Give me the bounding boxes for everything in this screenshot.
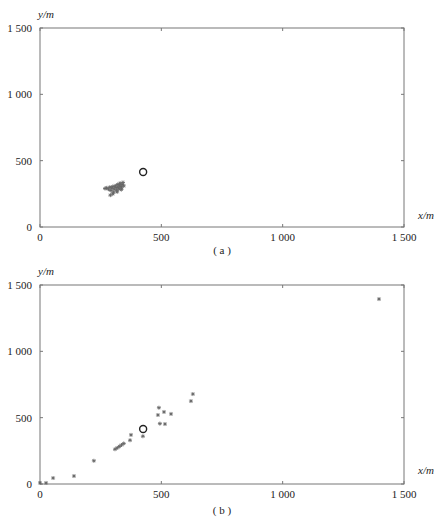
open-circle-icon: [140, 168, 147, 175]
x-tick-label: 1 000: [270, 488, 295, 500]
asterisk-icon: [156, 413, 160, 417]
x-tick-label: 1 500: [392, 488, 417, 500]
chart-panel-a: 05001 0001 50005001 0001 500y/mx/m( a ): [0, 0, 445, 266]
asterisk-icon: [158, 422, 162, 426]
asterisk-icon: [377, 297, 381, 301]
asterisk-icon: [72, 474, 76, 478]
x-tick-label: 500: [153, 488, 170, 500]
asterisk-icon: [122, 184, 126, 188]
asterisk-icon: [163, 422, 167, 426]
asterisk-icon: [44, 481, 48, 485]
x-axis-label: x/m: [417, 209, 434, 221]
plot-frame: [40, 285, 404, 484]
x-tick-label: 1 000: [270, 231, 295, 243]
asterisk-icon: [119, 188, 123, 192]
asterisk-icon: [169, 412, 173, 416]
x-tick-label: 1 500: [392, 231, 417, 243]
figure-caption: ( a ): [213, 244, 231, 257]
data-points-group: [38, 297, 381, 485]
figure-caption: ( b ): [213, 504, 232, 517]
x-tick-label: 0: [37, 231, 43, 243]
chart-panel-b: 05001 0001 50005001 0001 500y/mx/m( b ): [0, 266, 445, 532]
asterisk-icon: [129, 433, 133, 437]
scatter-plot-b: 05001 0001 50005001 0001 500y/mx/m( b ): [0, 266, 445, 532]
x-tick-label: 500: [153, 231, 170, 243]
asterisk-icon: [51, 476, 55, 480]
asterisk-icon: [141, 434, 145, 438]
y-tick-label: 1 000: [7, 345, 32, 357]
y-tick-label: 500: [16, 155, 33, 167]
asterisk-icon: [128, 438, 132, 442]
asterisk-icon: [92, 459, 96, 463]
y-tick-label: 1 500: [7, 22, 32, 34]
asterisk-icon: [189, 399, 193, 403]
y-tick-label: 0: [27, 478, 33, 490]
open-circle-icon: [140, 425, 147, 432]
center-marker-group: [140, 168, 147, 175]
asterisk-icon: [115, 190, 119, 194]
y-axis-label: y/m: [37, 266, 54, 277]
plot-frame: [40, 28, 404, 227]
asterisk-icon: [38, 481, 42, 485]
data-points-group: [103, 181, 126, 198]
y-tick-label: 500: [16, 412, 33, 424]
asterisk-icon: [162, 410, 166, 414]
x-axis-label: x/m: [417, 464, 434, 476]
y-tick-label: 0: [27, 221, 33, 233]
y-tick-label: 1 000: [7, 88, 32, 100]
asterisk-icon: [157, 406, 161, 410]
scatter-plot-a: 05001 0001 50005001 0001 500y/mx/m( a ): [0, 0, 445, 266]
y-axis-label: y/m: [37, 8, 54, 20]
x-tick-label: 0: [37, 488, 43, 500]
center-marker-group: [140, 425, 147, 432]
asterisk-icon: [191, 392, 195, 396]
asterisk-icon: [108, 193, 112, 197]
y-tick-label: 1 500: [7, 279, 32, 291]
